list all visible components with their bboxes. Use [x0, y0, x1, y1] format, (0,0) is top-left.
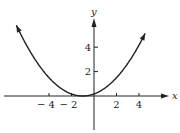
parabola-graph: − 4− 22424 x y: [0, 0, 180, 133]
x-tick-label: − 4: [37, 99, 55, 110]
x-axis-label: x: [172, 90, 178, 101]
y-axis-arrow-icon: [92, 18, 97, 27]
x-tick-label: 4: [136, 99, 142, 110]
curve-left-arrow-icon: [16, 25, 21, 32]
y-axis-label: y: [90, 6, 97, 17]
chart-canvas: − 4− 22424 x y: [0, 0, 180, 133]
y-tick-label: 2: [85, 66, 91, 77]
curve-right-arrow-icon: [140, 33, 145, 40]
x-axis-arrow-icon: [161, 94, 169, 99]
x-tick-label: 2: [113, 99, 119, 110]
curve-arrows: [16, 25, 145, 41]
y-tick-label: 4: [85, 42, 91, 53]
parabola-curve: [16, 25, 145, 96]
ticks: − 4− 22424: [37, 42, 142, 110]
x-tick-label: − 2: [60, 99, 78, 110]
